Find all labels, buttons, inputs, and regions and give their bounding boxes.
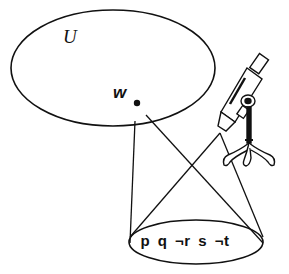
world-point [134,100,140,106]
valuation-label: p q ¬r s ¬t [120,232,250,249]
universe-label: U [63,26,77,48]
universe-ellipse [11,10,215,126]
projection-cone [130,115,263,243]
world-label: w [113,83,126,103]
